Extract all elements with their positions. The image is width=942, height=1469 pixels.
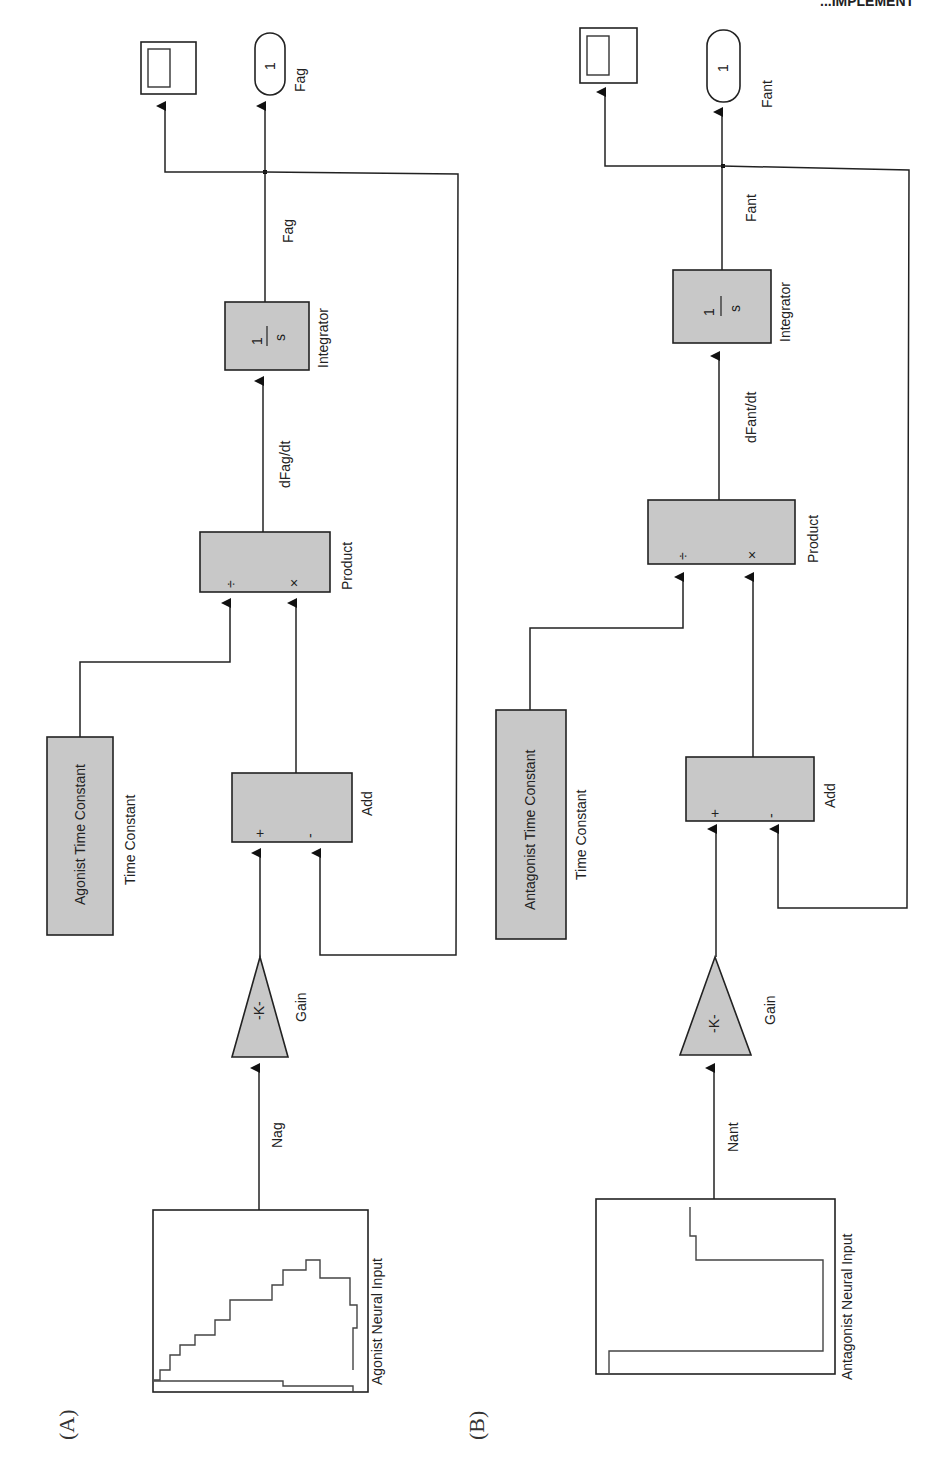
integrator-numerator: 1 <box>701 308 717 316</box>
outport-label: Fant <box>759 80 775 108</box>
simulink-diagram-page: ...IMPLEMENT (A) Agonist Neural Input Na… <box>0 0 942 1469</box>
outport-fag[interactable]: 1 Fag <box>255 33 308 95</box>
header-fragment: ...IMPLEMENT <box>820 0 915 9</box>
product-multiply-port: × <box>290 575 298 591</box>
time-constant-label: Time Constant <box>573 789 589 880</box>
integrator-denominator: s <box>272 334 288 341</box>
product-block-b[interactable]: ÷ × Product <box>648 500 821 564</box>
agonist-neural-input-block[interactable]: Agonist Neural Input <box>153 1210 385 1392</box>
gain-block-b[interactable]: -K- Gain <box>680 957 778 1055</box>
signal-label-dfag-dt: dFag/dt <box>277 440 293 488</box>
signal-label-nag: Nag <box>269 1122 285 1148</box>
signal-label-nant: Nant <box>725 1122 741 1152</box>
add-block-a[interactable]: + - Add <box>232 773 375 842</box>
outport-number: 1 <box>715 64 731 72</box>
gain-block-a[interactable]: -K- Gain <box>232 957 309 1057</box>
gain-symbol: -K- <box>251 1001 267 1020</box>
antagonist-time-constant-block[interactable]: Antagonist Time Constant Time Constant <box>496 710 589 939</box>
add-block-b[interactable]: + - Add <box>686 757 838 821</box>
time-constant-text: Antagonist Time Constant <box>522 750 538 910</box>
add-label: Add <box>359 791 375 816</box>
add-plus-sign: + <box>711 805 719 821</box>
scope-block-b[interactable] <box>580 28 637 83</box>
time-constant-label: Time Constant <box>122 794 138 885</box>
add-plus-sign: + <box>256 825 264 841</box>
time-constant-text: Agonist Time Constant <box>72 764 88 905</box>
integrator-denominator: s <box>727 305 743 312</box>
product-multiply-port: × <box>748 547 756 563</box>
wire-timeconst-product <box>530 577 683 710</box>
agonist-neural-input-label: Agonist Neural Input <box>369 1258 385 1385</box>
product-divide-port: ÷ <box>223 580 239 588</box>
gain-symbol: -K- <box>706 1014 722 1033</box>
integrator-numerator: 1 <box>249 337 265 345</box>
antagonist-neural-input-label: Antagonist Neural Input <box>839 1234 855 1380</box>
product-block-a[interactable]: ÷ × Product <box>200 532 355 592</box>
wire-timeconst-product <box>80 603 230 737</box>
add-minus-sign: - <box>763 813 779 818</box>
add-minus-sign: - <box>302 833 318 838</box>
outport-label: Fag <box>292 68 308 92</box>
outport-number: 1 <box>262 62 278 70</box>
signal-label-dfant-dt: dFant/dt <box>743 392 759 443</box>
product-label: Product <box>339 542 355 590</box>
outport-fant[interactable]: 1 Fant <box>707 30 775 108</box>
agonist-time-constant-block[interactable]: Agonist Time Constant Time Constant <box>47 737 138 935</box>
integrator-label: Integrator <box>315 308 331 368</box>
integrator-block-b[interactable]: 1 s Integrator <box>673 270 793 343</box>
gain-label: Gain <box>293 992 309 1022</box>
scope-block-a[interactable] <box>141 42 196 94</box>
panel-label-a: (A) <box>54 1409 79 1440</box>
antagonist-neural-input-block[interactable]: Antagonist Neural Input <box>596 1199 855 1380</box>
product-label: Product <box>805 515 821 563</box>
signal-label-fag: Fag <box>280 219 296 243</box>
product-divide-port: ÷ <box>675 552 691 560</box>
signal-label-fant: Fant <box>743 194 759 222</box>
panel-b: (B) Antagonist Neural Input Nant -K- Gai… <box>464 28 909 1440</box>
wire-to-scope <box>165 106 265 172</box>
panel-label-b: (B) <box>464 1411 489 1440</box>
wire-to-scope <box>605 92 722 166</box>
gain-label: Gain <box>762 995 778 1025</box>
integrator-block-a[interactable]: 1 s Integrator <box>225 302 331 370</box>
integrator-label: Integrator <box>777 282 793 342</box>
panel-a: (A) Agonist Neural Input Nag -K- Gain + … <box>47 33 458 1440</box>
add-label: Add <box>822 783 838 808</box>
